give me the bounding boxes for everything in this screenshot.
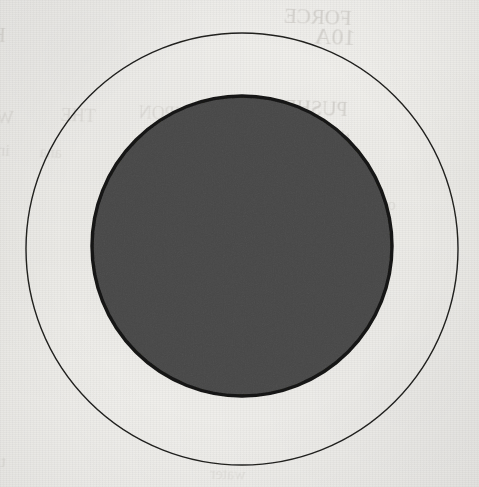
sphere-waterline-diagram — [0, 0, 479, 487]
figure-root: FORCE10AHLPUSHESTOUPONTHEWHENtheinanafor… — [0, 0, 479, 487]
